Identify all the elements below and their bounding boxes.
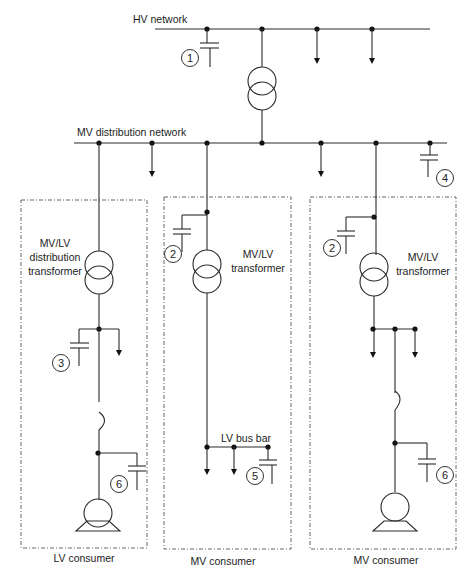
marker-2: 2: [165, 246, 182, 263]
marker-1: 1: [182, 50, 199, 67]
load-arrow-icon: [149, 143, 155, 177]
svg-text:1: 1: [187, 52, 193, 64]
hv-network-label: HV network: [133, 13, 188, 25]
single-line-diagram: HV network 1: [0, 0, 473, 576]
motor-icon: [76, 499, 120, 531]
svg-text:4: 4: [442, 172, 448, 184]
capacitor-6-icon: [395, 443, 436, 482]
load-arrow-icon: [231, 447, 237, 475]
svg-text:5: 5: [252, 470, 258, 482]
lv-consumer-label: LV consumer: [53, 552, 115, 564]
lv-consumer: MV/LV distribution transformer 3: [21, 143, 147, 564]
marker-5: 5: [247, 468, 264, 485]
capacitor-2-icon: [173, 215, 207, 252]
mv-consumer-2: 2 MV/LV transformer: [310, 143, 456, 566]
mv-network: MV distribution network 4: [74, 126, 454, 187]
mv-consumer-1: 2 MV/LV transformer LV bus bar: [164, 143, 291, 567]
circuit-breaker-icon: [395, 391, 400, 410]
mv-lv-transformer-icon: [193, 250, 221, 293]
capacitor-4-icon: [420, 143, 438, 177]
svg-text:transformer: transformer: [396, 265, 450, 277]
capacitor-2-icon: [337, 217, 374, 254]
marker-6: 6: [111, 476, 128, 493]
load-arrow-icon: [314, 29, 320, 64]
marker-2: 2: [324, 240, 341, 257]
svg-text:MV/LV: MV/LV: [243, 248, 274, 260]
motor-icon: [373, 493, 417, 531]
mv-consumer-1-label: MV consumer: [191, 555, 256, 567]
load-arrow-icon: [369, 29, 375, 64]
svg-text:6: 6: [116, 478, 122, 490]
mv-consumer-2-label: MV consumer: [354, 554, 419, 566]
svg-text:transformer: transformer: [231, 262, 285, 274]
marker-3: 3: [53, 355, 70, 372]
capacitor-3-icon: [70, 329, 119, 366]
hv-mv-transformer-icon: [248, 29, 276, 143]
marker-6: 6: [437, 467, 454, 484]
load-arrow-icon: [204, 469, 210, 475]
load-arrow-icon: [370, 352, 376, 358]
hv-network: HV network 1: [133, 13, 430, 143]
lv-bus-bar-label: LV bus bar: [221, 432, 272, 444]
marker-4: 4: [437, 170, 454, 187]
circuit-breaker-icon: [99, 412, 105, 430]
svg-text:MV/LV: MV/LV: [40, 237, 71, 249]
capacitor-1-icon: [200, 29, 219, 67]
svg-text:2: 2: [170, 248, 176, 260]
svg-text:distribution: distribution: [30, 251, 81, 263]
mv-lv-transformer-icon: [360, 253, 388, 296]
mv-network-label: MV distribution network: [77, 126, 187, 138]
svg-text:2: 2: [329, 242, 335, 254]
mv-lv-distribution-transformer-icon: [85, 251, 113, 294]
svg-text:6: 6: [442, 469, 448, 481]
svg-text:3: 3: [58, 357, 64, 369]
svg-text:MV/LV: MV/LV: [408, 251, 439, 263]
load-arrow-icon: [412, 329, 418, 358]
load-arrow-icon: [116, 329, 122, 356]
svg-text:transformer: transformer: [28, 265, 82, 277]
load-arrow-icon: [318, 143, 324, 177]
